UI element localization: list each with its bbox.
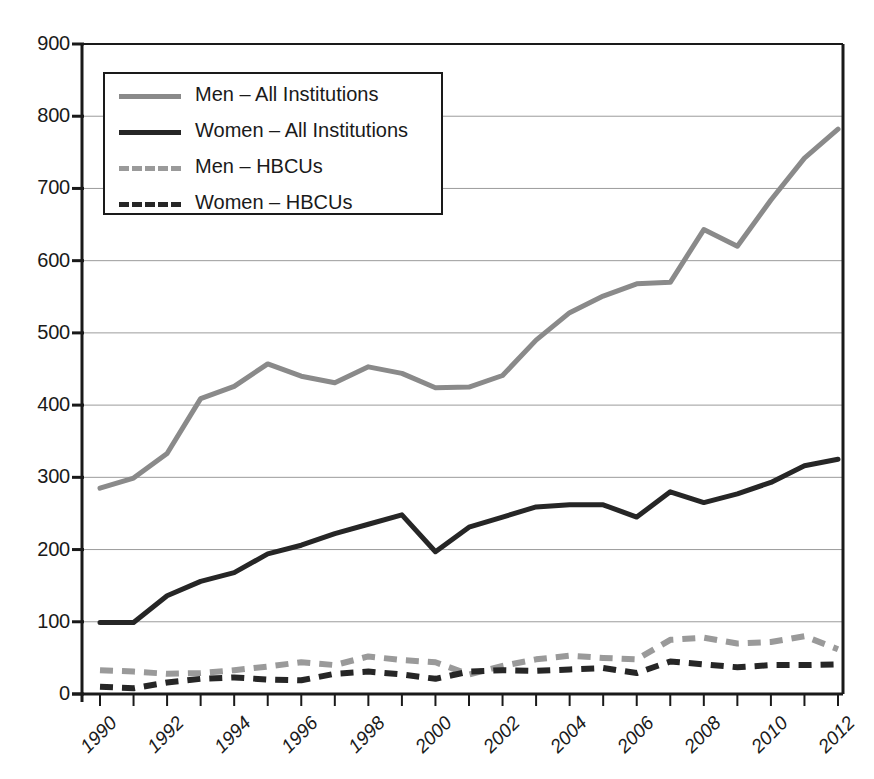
legend-line-swatch-icon	[119, 159, 181, 173]
y-axis-tick-label: 900	[10, 33, 70, 53]
y-axis-tick-value: 400	[10, 394, 70, 414]
y-axis-tick-value: 100	[10, 611, 70, 631]
legend-item-label: Women – HBCUs	[195, 192, 352, 212]
y-axis-tick-label: 100	[10, 611, 70, 631]
x-axis-tick-label: 2012	[764, 712, 844, 734]
legend-item-label: Women – All Institutions	[195, 120, 408, 140]
y-axis-tick-label: 300	[10, 466, 70, 486]
y-axis-tick-label: 0	[10, 683, 70, 703]
line-chart: 0100200300400500600700800900 19901992199…	[0, 0, 874, 779]
y-axis-tick-value: 800	[10, 105, 70, 125]
y-axis-tick-label: 400	[10, 394, 70, 414]
y-axis-tick-value: 600	[10, 250, 70, 270]
legend-line-swatch-icon	[119, 123, 181, 137]
legend-item-label: Men – All Institutions	[195, 84, 378, 104]
y-axis-tick-label: 200	[10, 539, 70, 559]
y-axis-tick-label: 500	[10, 322, 70, 342]
legend-line-swatch-icon	[119, 87, 181, 101]
legend-item: Men – All Institutions	[119, 77, 441, 110]
y-axis-tick-value: 500	[10, 322, 70, 342]
y-axis-tick-label: 800	[10, 105, 70, 125]
legend-item: Women – All Institutions	[119, 113, 441, 146]
chart-legend: Men – All InstitutionsWomen – All Instit…	[103, 72, 443, 215]
y-axis-tick-value: 0	[10, 683, 70, 703]
legend-line-swatch-icon	[119, 195, 181, 209]
y-axis-tick-value: 300	[10, 466, 70, 486]
y-axis-tick-label: 700	[10, 177, 70, 197]
y-axis-tick-label: 600	[10, 250, 70, 270]
series-line-2	[100, 636, 838, 674]
legend-item: Women – HBCUs	[119, 185, 441, 218]
y-axis-tick-value: 700	[10, 177, 70, 197]
y-axis-tick-value: 200	[10, 539, 70, 559]
legend-item: Men – HBCUs	[119, 149, 441, 182]
series-line-1	[100, 459, 838, 622]
y-axis-tick-value: 900	[10, 33, 70, 53]
legend-item-label: Men – HBCUs	[195, 156, 323, 176]
x-axis-ticks	[100, 694, 838, 706]
